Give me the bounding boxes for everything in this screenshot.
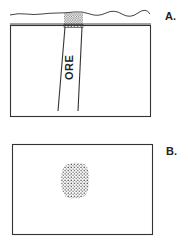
panel-b [13,145,153,235]
vein-top-hatch [64,25,83,28]
panel-b-label: B. [166,145,177,157]
diagram-canvas [0,0,188,245]
ore-outcrop-stipple [61,163,89,199]
rock-block [11,26,151,117]
ore-label: ORE [63,55,75,80]
gossan-cap [64,13,83,24]
panel-a [10,10,151,116]
vein-right-wall [78,27,82,111]
panel-a-label: A. [165,10,176,22]
